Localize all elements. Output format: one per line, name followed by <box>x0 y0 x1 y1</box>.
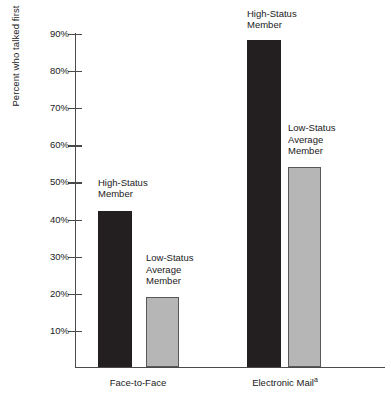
y-tick-label-20: 20% <box>50 287 69 300</box>
bar-chart-figure: Percent who talked first 90% 80% 70% 60%… <box>0 0 391 398</box>
y-tick-label-10: 10% <box>50 324 69 337</box>
bar-facetoface-low-status[interactable] <box>146 297 179 368</box>
bar-note-line: Member <box>247 19 297 31</box>
y-tick-mark-80 <box>68 71 82 72</box>
y-tick-label-80: 80% <box>50 64 69 77</box>
y-axis-title: Percent who talked first <box>10 0 26 136</box>
bar-email-low-status[interactable] <box>288 167 321 368</box>
y-axis-line <box>75 33 76 368</box>
bar-note-line: Member <box>288 145 336 157</box>
plot-area: 90% 80% 70% 60% 50% 40% 30% 20% <box>75 33 385 368</box>
group-label-electronic-mail: Electronic Maila <box>230 377 340 388</box>
bar-note-line: Average <box>288 134 336 146</box>
group-label-face-to-face: Face-to-Face <box>83 377 193 388</box>
group-label-text: Electronic Mail <box>252 377 314 388</box>
y-axis-title-text: Percent who talked first <box>10 0 21 136</box>
y-tick-label-30: 30% <box>50 250 69 263</box>
y-tick-mark-20 <box>68 294 82 295</box>
bar-note-line: High-Status <box>98 177 148 189</box>
y-tick-mark-50 <box>68 182 82 183</box>
y-tick-mark-10 <box>68 331 82 332</box>
bar-note-line: High-Status <box>247 8 297 20</box>
y-tick-label-60: 60% <box>50 138 69 151</box>
bar-note-email-low-status: Low-Status Average Member <box>288 122 336 157</box>
y-tick-mark-30 <box>68 257 82 258</box>
bar-note-line: Member <box>146 275 194 287</box>
bar-note-line: Low-Status <box>288 122 336 134</box>
y-tick-label-40: 40% <box>50 213 69 226</box>
group-label-text: Face-to-Face <box>110 377 167 388</box>
y-tick-mark-40 <box>68 220 82 221</box>
bar-facetoface-high-status[interactable] <box>98 211 132 367</box>
bar-note-line: Average <box>146 264 194 276</box>
y-tick-label-50: 50% <box>50 175 69 188</box>
bar-note-facetoface-low-status: Low-Status Average Member <box>146 252 194 287</box>
bar-note-facetoface-high-status: High-Status Member <box>98 177 148 200</box>
y-tick-label-70: 70% <box>50 101 69 114</box>
y-tick-mark-60 <box>68 145 82 146</box>
bar-email-high-status[interactable] <box>247 40 281 367</box>
y-tick-mark-90 <box>68 34 82 35</box>
bar-note-line: Low-Status <box>146 252 194 264</box>
y-tick-mark-70 <box>68 108 82 109</box>
bar-note-email-high-status: High-Status Member <box>247 8 297 31</box>
footnote-marker-a: a <box>314 376 318 383</box>
bar-note-line: Member <box>98 188 148 200</box>
y-tick-label-90: 90% <box>50 27 69 40</box>
